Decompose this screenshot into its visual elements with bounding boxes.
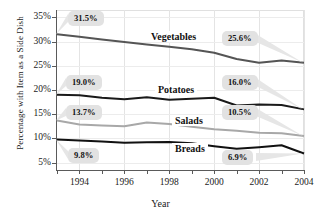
y-tick-label: 10% <box>15 133 51 143</box>
y-tick-label: 25% <box>15 61 51 71</box>
callout-potatoes-start: 19.0% <box>66 75 102 90</box>
x-tick-label: 2002 <box>239 177 279 187</box>
x-tick-label: 1996 <box>104 177 144 187</box>
callout-salads-start: 13.7% <box>66 105 102 120</box>
callout-vegetables-start: 31.5% <box>68 11 104 26</box>
y-tick-label: 35% <box>15 12 51 22</box>
x-tick <box>79 170 80 174</box>
series-label-salads: Salads <box>172 115 206 126</box>
series-label-potatoes: Potatoes <box>155 84 197 95</box>
callout-breads-end: 6.9% <box>222 150 253 165</box>
x-tick <box>147 170 148 174</box>
y-tick-label: 5% <box>15 158 51 168</box>
callout-potatoes-end: 16.0% <box>222 75 258 90</box>
x-tick <box>237 170 238 174</box>
x-tick <box>57 170 58 174</box>
x-tick <box>169 170 170 174</box>
x-axis-title: Year <box>0 198 321 209</box>
y-tick-label: 15% <box>15 109 51 119</box>
callout-vegetables-end: 25.6% <box>222 31 258 46</box>
x-tick <box>192 170 193 174</box>
callout-salads-end: 10.5% <box>222 105 258 120</box>
callout-breads-start: 9.8% <box>68 148 99 163</box>
series-label-vegetables: Vegetables <box>148 31 199 42</box>
y-tick-label: 20% <box>15 85 51 95</box>
x-tick <box>282 170 283 174</box>
x-tick-label: 1998 <box>149 177 189 187</box>
x-tick <box>304 170 305 174</box>
gridline-vertical <box>304 10 305 170</box>
line-chart: Percentage with Item as a Side Dish 5%10… <box>0 0 321 219</box>
x-tick-label: 1994 <box>59 177 99 187</box>
x-tick-label: 2000 <box>194 177 234 187</box>
series-label-breads: Breads <box>172 143 208 154</box>
x-tick <box>259 170 260 174</box>
x-tick <box>214 170 215 174</box>
y-tick-label: 30% <box>15 37 51 47</box>
x-tick <box>102 170 103 174</box>
x-tick-label: 2004 <box>284 177 321 187</box>
x-tick <box>124 170 125 174</box>
